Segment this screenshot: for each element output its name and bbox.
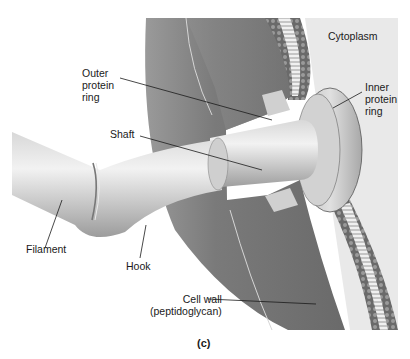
label-inner-protein-ring: Inner protein ring — [365, 81, 397, 117]
label-shaft: Shaft — [110, 128, 135, 140]
label-cell-wall: Cell wall (peptidoglycan) — [150, 293, 222, 317]
label-cytoplasm: Cytoplasm — [328, 30, 378, 42]
flagellum-diagram: Cytoplasm Outer protein ring Inner prote… — [0, 0, 410, 359]
figure-caption: (c) — [197, 337, 210, 349]
label-outer-protein-ring: Outer protein ring — [82, 67, 114, 103]
leader-hook — [140, 225, 146, 258]
label-filament: Filament — [26, 243, 66, 255]
label-hook: Hook — [126, 260, 151, 272]
